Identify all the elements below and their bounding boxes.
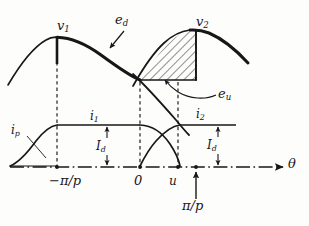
eu-leader-arrow bbox=[165, 80, 216, 98]
axis-label-theta: θ bbox=[288, 157, 296, 170]
tick-label-pi-over-p: π/p bbox=[182, 199, 203, 212]
waveform-figure: v1 v2 ed eu i1 i2 ip Id Id −π/p 0 u π/p … bbox=[0, 0, 309, 226]
label-i1: i1 bbox=[90, 110, 99, 124]
label-ed: ed bbox=[115, 13, 128, 28]
axis-dot-pi-p bbox=[194, 165, 198, 169]
label-v1: v1 bbox=[57, 19, 70, 34]
label-id-right: Id bbox=[207, 139, 217, 153]
tick-label-minus-pi-over-p: −π/p bbox=[49, 174, 81, 187]
tick-label-zero: 0 bbox=[134, 174, 142, 187]
label-id-left: Id bbox=[96, 140, 106, 154]
label-ip: ip bbox=[11, 124, 20, 138]
label-v2: v2 bbox=[196, 15, 209, 30]
ed-leader-arrow bbox=[110, 31, 124, 48]
commutation-area-eu bbox=[140, 30, 196, 80]
label-eu: eu bbox=[218, 87, 231, 102]
curve-i1 bbox=[57, 125, 180, 166]
label-i2: i2 bbox=[196, 108, 205, 122]
curve-i2 bbox=[140, 125, 236, 166]
tick-label-u: u bbox=[169, 175, 177, 187]
waveform-canvas bbox=[0, 0, 309, 226]
